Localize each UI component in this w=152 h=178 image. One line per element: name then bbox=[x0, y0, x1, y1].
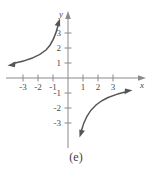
y-tick-label--3: -3 bbox=[54, 118, 62, 128]
coordinate-plot: -3 -2 -1 1 2 3 3 2 1 -1 -2 -3 y x bbox=[0, 0, 152, 152]
y-tick-label-2: 2 bbox=[57, 43, 62, 53]
y-tick-label--2: -2 bbox=[54, 103, 62, 113]
curve-lower-right-branch bbox=[81, 92, 127, 133]
x-tick-label-2: 2 bbox=[96, 82, 101, 92]
curve-upper-left-arrowhead-left bbox=[8, 62, 16, 68]
x-tick-label--2: -2 bbox=[34, 82, 42, 92]
y-axis-label: y bbox=[58, 9, 63, 19]
y-axis-arrowhead bbox=[65, 11, 71, 19]
curve-upper-left-branch bbox=[13, 24, 59, 64]
curve-upper-left-arrowhead-top bbox=[55, 19, 61, 27]
curve-lower-right-arrowhead-bottom bbox=[79, 129, 85, 137]
y-tick-label-1: 1 bbox=[57, 58, 62, 68]
figure-container: -3 -2 -1 1 2 3 3 2 1 -1 -2 -3 y x (e) bbox=[0, 0, 152, 178]
figure-caption: (e) bbox=[0, 150, 152, 165]
x-tick-label--3: -3 bbox=[19, 82, 27, 92]
x-tick-label-3: 3 bbox=[111, 82, 116, 92]
curve-lower-right-arrowhead-right bbox=[125, 89, 133, 95]
x-axis-label: x bbox=[139, 80, 144, 90]
y-tick-label--1: -1 bbox=[54, 88, 62, 98]
x-tick-label-1: 1 bbox=[81, 82, 86, 92]
